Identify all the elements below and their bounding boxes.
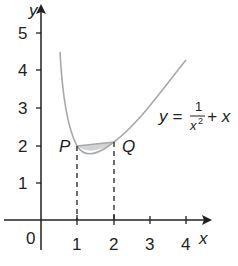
x-tick-label-3: 3 xyxy=(145,235,154,254)
y-tick-label-2: 2 xyxy=(18,137,27,156)
equation-tail: + x xyxy=(207,107,231,126)
x-tick-label-4: 4 xyxy=(181,235,190,254)
y-tick-label-5: 5 xyxy=(18,24,27,43)
x-tick-label-2: 2 xyxy=(109,235,118,254)
equation-lhs: y = xyxy=(158,107,182,126)
y-tick-label-3: 3 xyxy=(18,99,27,118)
x-axis-label: x xyxy=(198,229,208,248)
y-tick-label-4: 4 xyxy=(18,61,27,80)
origin-label: 0 xyxy=(26,229,35,248)
point-label-q: Q xyxy=(122,137,135,156)
graph-diagram: y x 0 1 2 3 4 1 2 3 4 5 P Q y = 1 x 2 + … xyxy=(0,0,238,266)
graph-svg: y x 0 1 2 3 4 1 2 3 4 5 P Q y = 1 x 2 + … xyxy=(0,0,238,266)
x-tick-label-1: 1 xyxy=(72,235,81,254)
point-label-p: P xyxy=(59,137,71,156)
equation-exponent: 2 xyxy=(198,116,203,126)
y-axis-label: y xyxy=(28,1,39,20)
equation-numerator: 1 xyxy=(195,99,202,114)
y-tick-label-1: 1 xyxy=(18,174,27,193)
equation-denominator: x xyxy=(189,118,197,133)
